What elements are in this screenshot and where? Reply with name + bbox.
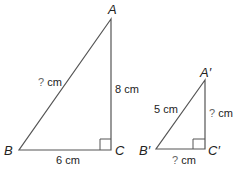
hypotenuse-label-large: ? cm [38,76,62,88]
right-angle-marker-c [100,139,111,150]
vertex-label-a: A [107,2,117,17]
large-triangle: A B C ? cm 8 cm 6 cm [4,2,139,166]
small-triangle: A′ B′ C′ 5 cm ? cm ? cm [139,65,233,166]
right-angle-marker-c-prime [193,139,205,149]
vertex-label-b: B [4,143,13,158]
triangle-abc [19,19,111,150]
hypotenuse-label-small: 5 cm [154,103,178,115]
vertex-label-a-prime: A′ [199,65,212,80]
vertex-label-c-prime: C′ [208,143,220,158]
vertical-leg-label-small: ? cm [209,107,233,119]
similar-triangles-diagram: A B C ? cm 8 cm 6 cm A′ B′ C′ 5 cm ? cm … [0,0,243,169]
horizontal-leg-label-small: ? cm [172,154,196,166]
vertex-label-b-prime: B′ [139,143,151,158]
horizontal-leg-label-large: 6 cm [56,154,80,166]
vertical-leg-label-large: 8 cm [115,83,139,95]
vertex-label-c: C [115,143,125,158]
